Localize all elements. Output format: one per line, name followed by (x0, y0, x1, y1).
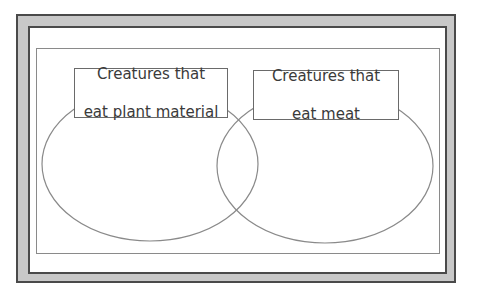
label-meat-eaters: Creatures that eat meat (253, 70, 399, 120)
label-plant-eaters: Creatures that eat plant material (74, 68, 228, 118)
label-meat-line1: Creatures that (272, 67, 380, 86)
label-plant-line1: Creatures that (84, 65, 219, 84)
label-meat-line2: eat meat (272, 105, 380, 124)
label-plant-line2: eat plant material (84, 103, 219, 122)
venn-diagram (0, 0, 478, 293)
